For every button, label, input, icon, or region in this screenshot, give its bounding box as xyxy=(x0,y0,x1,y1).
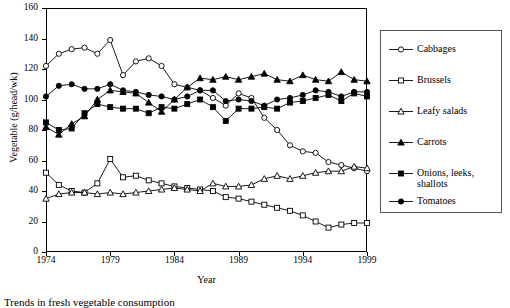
legend-label: Carrots xyxy=(417,136,446,147)
legend-label: Brussels xyxy=(417,74,451,85)
legend-marker-filled-circle-icon xyxy=(388,196,414,207)
series-layer xyxy=(0,0,380,272)
legend-marker-filled-triangle-icon xyxy=(388,137,414,148)
legend-item-onions-leeks-shallots[interactable]: Onions, leeks, shallots xyxy=(388,167,474,189)
legend-marker-open-square-icon xyxy=(388,75,414,86)
legend-item-cabbages[interactable]: Cabbages xyxy=(388,43,456,54)
series-tomatoes xyxy=(43,82,369,109)
legend-label: Cabbages xyxy=(417,43,456,54)
legend-marker-open-triangle-icon xyxy=(388,106,414,117)
y-axis-title: Vegetable (g/head/wk) xyxy=(8,43,19,193)
series-onions-leeks-shallots xyxy=(44,91,370,133)
figure-caption: Trends in fresh vegetable consumption xyxy=(4,296,175,308)
legend-item-brussels[interactable]: Brussels xyxy=(388,74,451,85)
legend: CabbagesBrusselsLeafy saladsCarrotsOnion… xyxy=(380,30,502,213)
legend-item-tomatoes[interactable]: Tomatoes xyxy=(388,195,456,206)
legend-marker-filled-square-icon xyxy=(388,168,414,179)
series-leafy-salads xyxy=(43,163,370,201)
plot-area: 0204060801001201401601974197919841989199… xyxy=(0,0,380,272)
legend-item-carrots[interactable]: Carrots xyxy=(388,136,446,147)
legend-label: Tomatoes xyxy=(417,195,456,206)
legend-item-leafy-salads[interactable]: Leafy salads xyxy=(388,105,467,116)
legend-label: Leafy salads xyxy=(417,105,467,116)
x-axis-title: Year xyxy=(46,274,367,285)
legend-label: Onions, leeks, shallots xyxy=(417,167,474,189)
chart-figure: 0204060801001201401601974197919841989199… xyxy=(0,0,510,308)
legend-marker-open-circle-icon xyxy=(388,44,414,55)
